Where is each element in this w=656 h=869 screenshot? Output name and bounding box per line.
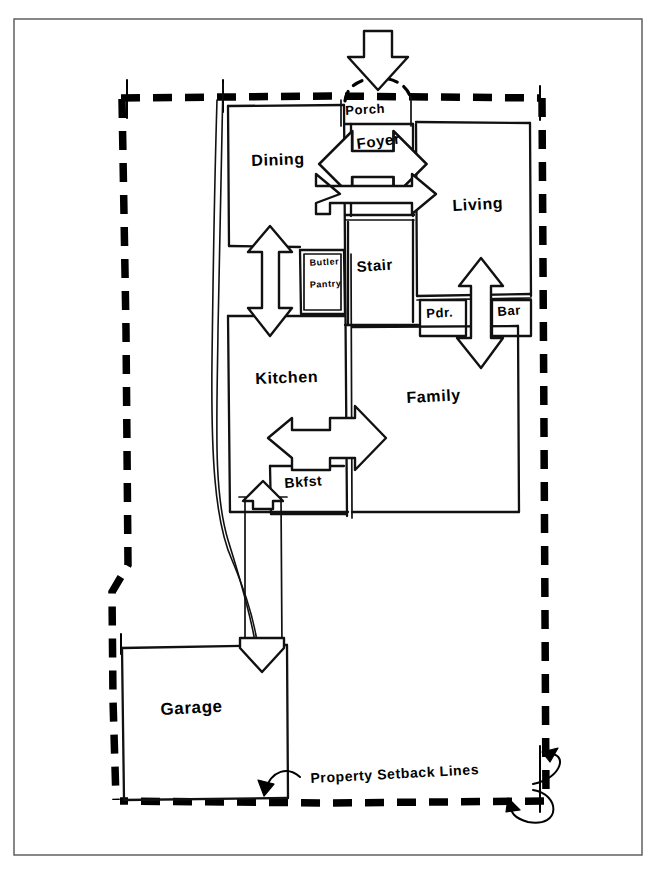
room-label-kitchen: Kitchen xyxy=(255,368,318,388)
breakfast-garage-down-arrow xyxy=(240,638,284,672)
garage-connector-walls xyxy=(239,497,287,648)
butler-pantry-line-1: Butler xyxy=(303,257,345,269)
living-family-arrow xyxy=(457,258,503,368)
breakfast-garage-up-arrow xyxy=(243,481,283,509)
room-label-breakfast: Bkfst xyxy=(284,475,323,489)
room-label-family: Family xyxy=(406,386,461,407)
setback-leader-right-lower xyxy=(506,790,553,823)
room-label-porch: Porch xyxy=(345,103,385,116)
room-label-dining: Dining xyxy=(251,150,305,170)
room-label-garage: Garage xyxy=(160,697,223,720)
entry-approach-arrow xyxy=(348,31,408,90)
floor-plan-drawing xyxy=(0,0,656,869)
room-outline-dining xyxy=(228,105,345,252)
dining-kitchen-arrow xyxy=(248,226,292,336)
room-label-butler-pantry: Butler Pantry xyxy=(303,257,347,290)
room-label-bar: Bar xyxy=(497,304,521,317)
room-label-powder: Pdr. xyxy=(426,307,454,319)
room-label-living: Living xyxy=(452,194,504,215)
floor-plan-sheet: Dining Porch Foyer Living Stair Butler P… xyxy=(0,0,656,869)
room-label-stair: Stair xyxy=(356,255,393,274)
setback-leader-right-upper xyxy=(533,746,560,784)
kitchen-family-arrow xyxy=(268,406,386,470)
setback-leader-left xyxy=(258,771,300,796)
room-label-foyer: Foyer xyxy=(356,133,401,149)
room-outline-family xyxy=(352,303,519,512)
